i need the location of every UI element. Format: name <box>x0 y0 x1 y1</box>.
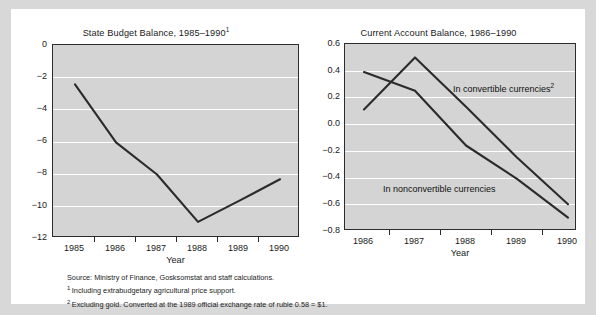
note-footnote-1-text: Including extrabudgetary agricultural pr… <box>72 287 236 296</box>
xtick-label-right: 1990 <box>547 236 587 246</box>
xtick-mark-left <box>258 237 259 242</box>
ytick-label-left: −12 <box>11 232 47 242</box>
ytick-label-right: 0.0 <box>296 118 340 128</box>
ytick-label-right: 0.4 <box>296 65 340 75</box>
dataline-convertible <box>364 57 568 204</box>
note-source: Source: Ministry of Finance, Gosksomstat… <box>67 273 537 283</box>
xtick-mark-right <box>440 230 441 235</box>
ytick-label-left: −6 <box>11 135 47 145</box>
chart-title-left-text: State Budget Balance, 1985–1990 <box>83 28 226 38</box>
xtick-label-right: 1986 <box>343 236 383 246</box>
xtick-label-left: 1989 <box>218 243 258 253</box>
ytick-label-right: −0.8 <box>296 225 340 235</box>
chart-title-left: State Budget Balance, 1985–19901 <box>11 26 301 38</box>
xtick-mark-left <box>135 237 136 242</box>
xaxis-title-left: Year <box>52 255 299 265</box>
series-label-convertible: In convertible currencies2 <box>453 82 554 94</box>
note-footnote-1: 1Including extrabudgetary agricultural p… <box>67 283 537 297</box>
ytick-label-left: −8 <box>11 167 47 177</box>
ytick-label-right: −0.2 <box>296 145 340 155</box>
plot-area-right: In convertible currencies2 In nonconvert… <box>344 43 576 230</box>
chart-state-budget-balance: State Budget Balance, 1985–19901 0 −2 −4… <box>11 9 301 264</box>
ytick-label-left: −10 <box>11 200 47 210</box>
chart-title-right: Current Account Balance, 1986–1990 <box>292 26 585 38</box>
xtick-mark-right <box>491 230 492 235</box>
xtick-mark-left <box>94 237 95 242</box>
dataline-state-budget <box>75 84 280 222</box>
xtick-label-right: 1988 <box>445 236 485 246</box>
xtick-mark-right <box>542 230 543 235</box>
series-label-convertible-superscript: 2 <box>551 82 555 89</box>
plot-area-left <box>52 44 299 237</box>
xtick-label-right: 1987 <box>394 236 434 246</box>
series-lines-left <box>53 45 300 238</box>
ytick-label-left: −4 <box>11 103 47 113</box>
note-footnote-1-marker: 1 <box>67 285 70 291</box>
xaxis-title-right: Year <box>344 248 576 258</box>
ytick-label-right: −0.4 <box>296 171 340 181</box>
note-footnote-2-text: Excluding gold. Converted at the 1989 of… <box>72 301 328 310</box>
ytick-label-right: −0.6 <box>296 198 340 208</box>
xtick-label-left: 1985 <box>54 243 94 253</box>
xtick-mark-right <box>389 230 390 235</box>
note-footnote-2: 2Excluding gold. Converted at the 1989 o… <box>67 297 537 311</box>
xtick-label-left: 1988 <box>177 243 217 253</box>
ytick-label-right: 0.2 <box>296 91 340 101</box>
ytick-label-left: −2 <box>11 71 47 81</box>
xtick-label-right: 1989 <box>496 236 536 246</box>
chart-title-left-superscript: 1 <box>226 26 230 33</box>
figure-container: State Budget Balance, 1985–19901 0 −2 −4… <box>0 0 596 315</box>
xtick-mark-left <box>217 237 218 242</box>
figure-paper: State Budget Balance, 1985–19901 0 −2 −4… <box>11 9 585 304</box>
xtick-label-left: 1986 <box>95 243 135 253</box>
series-label-nonconvertible: In nonconvertible currencies <box>383 184 496 194</box>
figure-notes: Source: Ministry of Finance, Gosksomstat… <box>67 273 537 311</box>
ytick-label-left: 0 <box>11 39 47 49</box>
note-footnote-2-marker: 2 <box>67 299 70 305</box>
series-lines-right <box>345 44 577 231</box>
chart-current-account-balance: Current Account Balance, 1986–1990 In c <box>292 9 585 264</box>
xtick-mark-left <box>176 237 177 242</box>
series-label-nonconvertible-text: In nonconvertible currencies <box>383 184 496 194</box>
chart-title-right-text: Current Account Balance, 1986–1990 <box>360 28 516 38</box>
xtick-label-left: 1987 <box>136 243 176 253</box>
series-label-convertible-text: In convertible currencies <box>453 84 551 94</box>
ytick-label-right: 0.6 <box>296 38 340 48</box>
